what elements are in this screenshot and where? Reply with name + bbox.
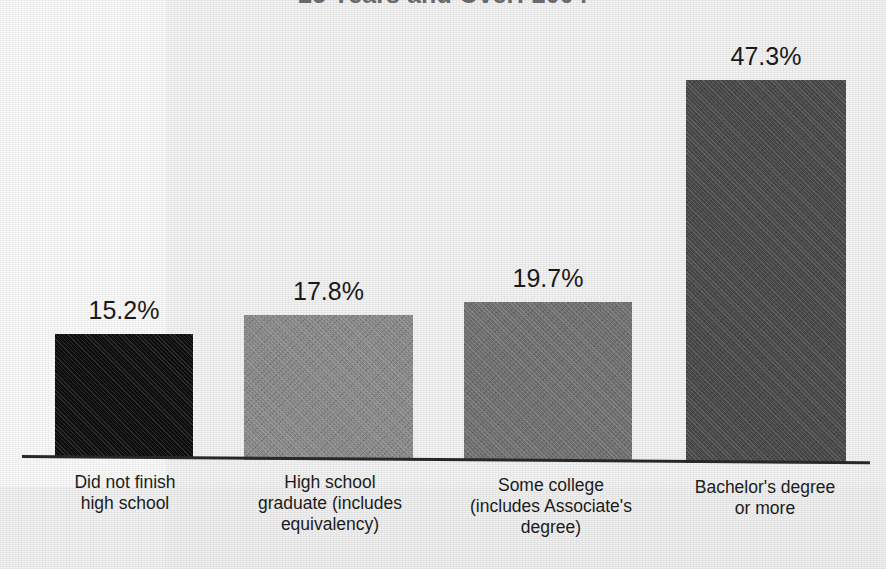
bar-chart-plot: 15.2% 17.8% 19.7% 47.3% Did not finish h… bbox=[0, 0, 886, 569]
category-label-0-line-0: Did not finish bbox=[30, 472, 220, 493]
bar-3 bbox=[686, 80, 846, 463]
category-label-3-line-1: or more bbox=[665, 498, 865, 519]
scanned-page: 25 Years and Over: 2004 15.2% 17.8% 19.7… bbox=[0, 0, 886, 569]
category-label-1-line-0: High school bbox=[230, 472, 430, 493]
bar-texture-2 bbox=[464, 302, 632, 461]
category-label-3-line-0: Bachelor's degree bbox=[665, 477, 865, 498]
bar-1 bbox=[244, 315, 413, 460]
category-label-2-line-2: degree) bbox=[445, 517, 657, 538]
category-label-0: Did not finish high school bbox=[30, 472, 220, 514]
category-label-1-line-1: graduate (includes bbox=[230, 493, 430, 514]
bar-2 bbox=[464, 302, 632, 461]
bar-texture-3 bbox=[686, 80, 846, 463]
category-label-2-line-1: (includes Associate's bbox=[445, 496, 657, 517]
category-label-2: Some college (includes Associate's degre… bbox=[445, 475, 657, 538]
bar-value-label-2: 19.7% bbox=[464, 264, 632, 293]
category-label-3: Bachelor's degree or more bbox=[665, 477, 865, 519]
bar-texture-1 bbox=[244, 315, 413, 460]
category-label-2-line-0: Some college bbox=[445, 475, 657, 496]
bar-value-label-0: 15.2% bbox=[55, 296, 193, 325]
bar-0 bbox=[55, 334, 193, 458]
category-label-1-line-2: equivalency) bbox=[230, 514, 430, 535]
category-label-0-line-1: high school bbox=[30, 493, 220, 514]
category-label-1: High school graduate (includes equivalen… bbox=[230, 472, 430, 535]
bar-texture-0 bbox=[55, 334, 193, 458]
bar-value-label-3: 47.3% bbox=[686, 42, 846, 71]
bar-value-label-1: 17.8% bbox=[244, 277, 413, 306]
